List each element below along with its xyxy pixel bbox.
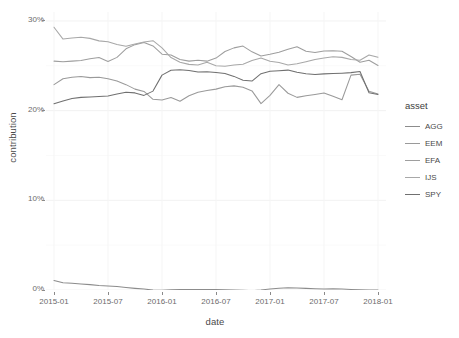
x-tick-label: 2017-01 — [242, 297, 298, 306]
legend-swatch-icon — [405, 194, 420, 195]
y-tick-label: 30% — [4, 15, 44, 24]
x-tick-label: 2015-07 — [80, 297, 136, 306]
x-tick-mark — [270, 292, 271, 295]
legend-swatch-icon — [405, 160, 420, 161]
x-tick-label: 2015-01 — [26, 297, 82, 306]
x-tick-mark — [108, 292, 109, 295]
legend-item-spy[interactable]: SPY — [405, 186, 459, 203]
x-tick-label: 2017-07 — [296, 297, 352, 306]
legend-item-label: EEM — [425, 139, 442, 148]
y-tick-mark — [42, 200, 45, 201]
legend-item-efa[interactable]: EFA — [405, 152, 459, 169]
y-tick-mark — [42, 110, 45, 111]
x-tick-label: 2016-01 — [134, 297, 190, 306]
x-axis: 2015-012015-072016-012016-072017-012017-… — [0, 292, 459, 314]
line-chart: 0%10%20%30% 2015-012015-072016-012016-07… — [0, 0, 459, 338]
x-tick-mark — [162, 292, 163, 295]
legend-title: asset — [405, 100, 459, 111]
legend-item-label: AGG — [425, 122, 443, 131]
gridlines — [46, 12, 386, 290]
legend-item-label: SPY — [425, 190, 441, 199]
x-tick-label: 2018-01 — [350, 297, 406, 306]
x-tick-label: 2016-07 — [188, 297, 244, 306]
y-tick-mark — [42, 290, 45, 291]
x-tick-mark — [54, 292, 55, 295]
legend-items: AGGEEMEFAIJSSPY — [405, 118, 459, 203]
legend-item-eem[interactable]: EEM — [405, 135, 459, 152]
y-tick-mark — [42, 20, 45, 21]
legend-item-ijs[interactable]: IJS — [405, 169, 459, 186]
plot-panel — [46, 12, 386, 290]
legend-item-label: EFA — [425, 156, 440, 165]
plot-lines — [46, 12, 386, 290]
legend: asset AGGEEMEFAIJSSPY — [405, 100, 459, 203]
x-tick-mark — [216, 292, 217, 295]
x-tick-mark — [378, 292, 379, 295]
y-axis-title: contribution — [7, 98, 18, 178]
legend-swatch-icon — [405, 126, 420, 127]
x-axis-title: date — [40, 316, 390, 327]
y-tick-label: 10% — [4, 194, 44, 203]
legend-item-agg[interactable]: AGG — [405, 118, 459, 135]
legend-swatch-icon — [405, 177, 420, 178]
x-tick-mark — [324, 292, 325, 295]
legend-item-label: IJS — [425, 173, 437, 182]
legend-swatch-icon — [405, 143, 420, 144]
